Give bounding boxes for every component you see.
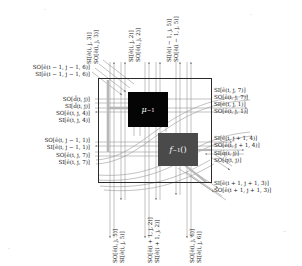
port-label-right-4-so: SO[q̂(i, j)]: [214, 157, 302, 163]
port-label-bot-2-so: SO[ê(i + 1, j, 2)]: [147, 217, 153, 263]
port-label-bot-3-si: SI[ê(i, j, 6)]: [196, 231, 202, 263]
port-label-left-5-so: SO[ê(i, j, 7)]: [0, 152, 90, 158]
port-label-top-2-so: SO[ê(i, j, 2)]: [135, 28, 141, 62]
diagram-canvas: μ−1 f−1() SI[ê(i, j, 3)] SO[ê(i, j, 3)] …: [0, 0, 302, 266]
block-f-suffix: (): [180, 145, 186, 154]
port-label-top-3-si: SI[ê(i − 1, j, 5)]: [166, 19, 172, 62]
port-label-left-4-si: SI[ê(i, j − 1, 1)]: [0, 144, 90, 150]
port-label-bot-1-si: SI[ê(i, j, 5)]: [119, 231, 125, 263]
port-label-left-1-si: SI[ê(i − 1, j − 1, 6)]: [0, 71, 90, 77]
port-label-left-4-so: SO[ê(i, j − 1, 1)]: [0, 137, 90, 143]
port-label-bot-3-so: SO[ê(i, j, 6)]: [189, 229, 195, 263]
port-label-top-2-si: SI[ê(i, j, 2)]: [128, 30, 134, 62]
block-f-inverse[interactable]: f−1(): [158, 133, 198, 166]
port-label-right-1-so: SO[ê(i, j, 7)]: [214, 94, 302, 100]
port-label-top-1-so: SO[ê(i, j, 3)]: [93, 30, 99, 64]
port-label-right-4-si: SI[q̂(i, j)]: [214, 150, 302, 156]
port-label-top-3-so: SO[ê(i − 1, j, 5)]: [173, 16, 179, 62]
port-label-right-3-si: SI[ê(i, j + 1, 4)]: [214, 135, 302, 141]
block-mu-exponent: −1: [147, 107, 155, 113]
port-label-right-2-si: SI[ê(i, j, 1)]: [214, 101, 302, 107]
port-label-right-5-si: SI[ê(i + 1, j + 1, 3)]: [214, 180, 302, 186]
port-label-right-2-so: SO[ê(i, j, 1)]: [214, 108, 302, 114]
port-label-bot-1-so: SO[ê(i, j, 5)]: [112, 229, 118, 263]
port-label-top-1-si: SI[ê(i, j, 3)]: [86, 32, 92, 64]
port-label-left-2-si: SI[d̂(i, j)]: [0, 103, 90, 109]
port-label-left-3-so: SO[ê(i, j, 4)]: [0, 110, 90, 116]
block-mu-inverse[interactable]: μ−1: [128, 92, 168, 127]
port-label-left-1-so: SO[ê(i − 1, j − 1, 6)]: [0, 64, 90, 70]
port-label-right-3-so: SO[ê(i, j + 1, 4)]: [214, 142, 302, 148]
block-f-exponent: −1: [172, 147, 180, 153]
port-label-right-5-so: SO[ê(i + 1, j + 1, 3)]: [214, 187, 302, 193]
port-label-left-2-so: SO[d̂(i, j)]: [0, 96, 90, 102]
port-label-bot-2-si: SI[ê(i + 1, j, 2)]: [154, 220, 160, 263]
port-label-left-5-si: SI[ê(i, j, 7)]: [0, 159, 90, 165]
port-label-right-1-si: SI[ê(i, j, 7)]: [214, 87, 302, 93]
port-label-left-3-si: SI[ê(i, j, 4)]: [0, 117, 90, 123]
